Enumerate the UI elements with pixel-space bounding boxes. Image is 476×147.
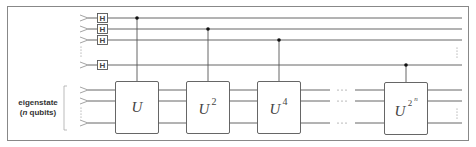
register-label-title: eigenstate [14, 98, 62, 108]
control-dot-icon [277, 38, 281, 42]
control-wires [88, 18, 462, 65]
svg-text:2: 2 [408, 98, 413, 108]
svg-text:H: H [100, 61, 106, 70]
svg-text:n: n [414, 95, 418, 103]
register-label: eigenstate (n qubits) [14, 98, 62, 118]
register-bracket [64, 86, 67, 130]
hadamard-gate: H [98, 61, 108, 71]
phase-estimation-circuit: H H H H [0, 0, 476, 147]
svg-text:U: U [199, 101, 211, 117]
svg-text:U: U [270, 101, 282, 117]
ellipsis-vertical-icon [456, 47, 457, 57]
svg-text:U: U [395, 103, 407, 119]
controlled-u2n-gate: U 2 n [385, 63, 428, 134]
svg-text:H: H [100, 36, 106, 45]
ellipsis-vertical-icon [80, 46, 81, 56]
controlled-u-gate: U [116, 16, 159, 133]
hadamard-gates: H H H H [98, 14, 108, 71]
hadamard-gate: H [98, 14, 108, 24]
svg-text:U: U [132, 99, 144, 115]
hadamard-gate: H [98, 25, 108, 35]
ellipsis-vertical-icon [80, 107, 81, 117]
controlled-u4-gate: U 4 [258, 38, 301, 133]
ellipsis-vertical-icon [456, 108, 457, 118]
svg-text:H: H [100, 25, 106, 34]
control-dot-icon [206, 27, 210, 31]
svg-text:2: 2 [212, 96, 217, 107]
controlled-u2-gate: U 2 [187, 27, 230, 133]
svg-text:H: H [100, 14, 106, 23]
control-dot-icon [404, 63, 408, 67]
control-dot-icon [135, 16, 139, 20]
input-marker-icons [80, 15, 88, 126]
hadamard-gate: H [98, 36, 108, 46]
register-label-subtitle: (n qubits) [14, 108, 62, 118]
ellipsis-horizontal-icon [337, 89, 346, 123]
svg-text:4: 4 [283, 96, 288, 107]
